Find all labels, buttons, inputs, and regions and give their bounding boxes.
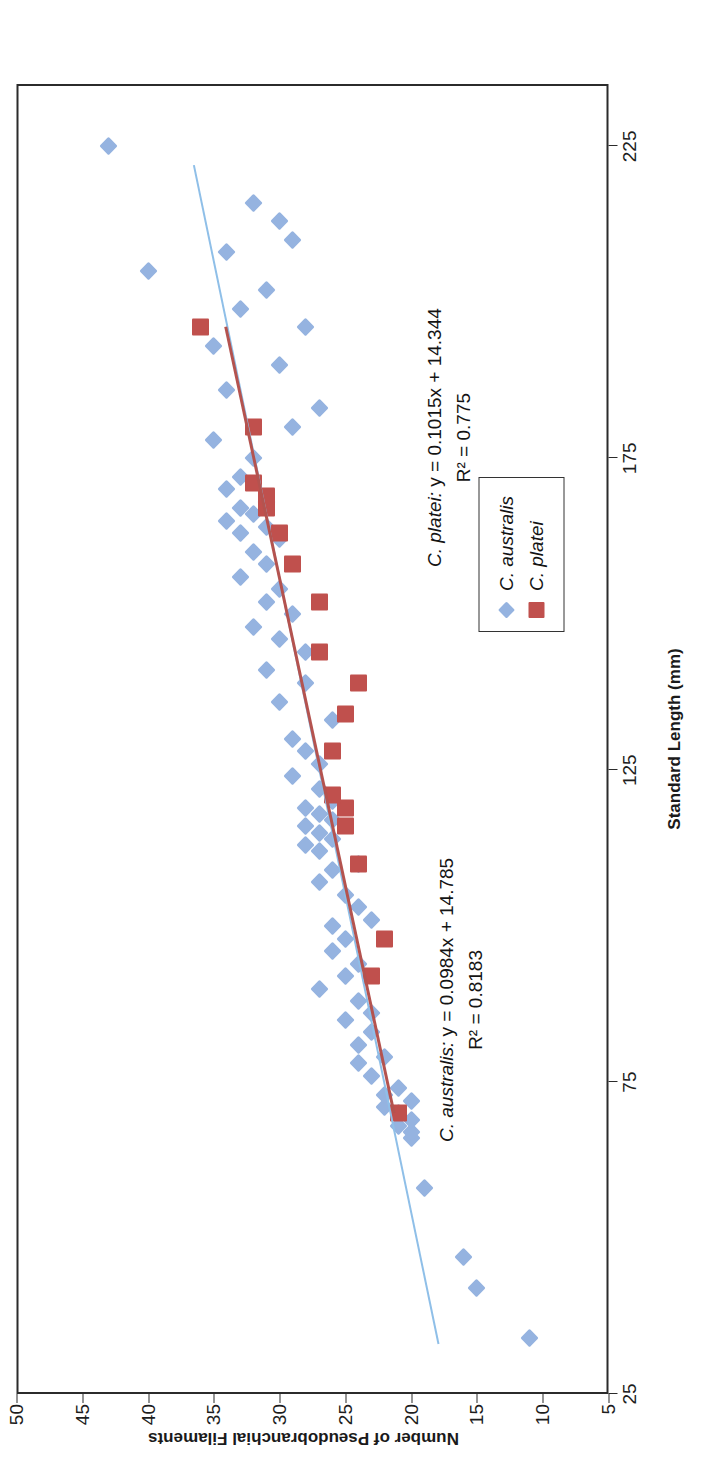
annotation-australis-fit: C. australis: y = 0.0984x + 14.785R² = 0… [432,858,489,1142]
annotation-equation-line: C. australis: y = 0.0984x + 14.785 [432,858,461,1142]
chart-figure: Callanthias 2575125175225510152025303540… [0,0,713,1472]
x-tick-mark [608,1081,617,1082]
legend-item-label: C. platei [525,521,547,591]
chart-legend: C. australisC. platei [478,477,564,632]
data-point [350,674,367,691]
data-point [323,743,340,760]
data-point [310,593,327,610]
annotation-equation-line: C. platei: y = 0.1015x + 14.344 [420,308,449,567]
x-tick-mark [608,769,617,770]
x-tick-label: 25 [618,1383,640,1404]
annotation-r2-line: R² = 0.8183 [461,858,490,1142]
y-tick-mark [608,1394,609,1403]
annotation-platei-fit: C. platei: y = 0.1015x + 14.344R² = 0.77… [420,308,477,567]
y-tick-mark [345,1394,346,1403]
y-tick-mark [411,1394,412,1403]
diamond-marker-icon [498,602,515,619]
data-point [271,525,288,542]
x-tick-label: 175 [618,442,640,474]
data-point [350,855,367,872]
x-tick-mark [608,145,617,146]
legend-item-label: C. australis [495,496,517,591]
y-tick-mark [279,1394,280,1403]
annotation-r2-line: R² = 0.775 [449,308,478,567]
data-point [336,818,353,835]
legend-item-australis[interactable]: C. australis [491,496,521,619]
y-tick-mark [82,1394,83,1403]
y-axis-title: Number of Pseudobranchial Filaments [7,1428,599,1448]
x-tick-mark [608,457,617,458]
data-point [192,319,209,336]
annotation-species-name: C. australis: [435,1042,456,1142]
data-point [336,706,353,723]
data-point [284,556,301,573]
legend-item-platei[interactable]: C. platei [521,496,551,619]
y-tick-mark [148,1394,149,1403]
x-tick-label: 125 [618,754,640,786]
y-tick-mark [542,1394,543,1403]
y-tick-mark [213,1394,214,1403]
x-axis-title: Standard Length (mm) [664,84,684,1394]
annotation-species-name: C. platei: [423,492,444,567]
chart-figure-rotator: Callanthias 2575125175225510152025303540… [0,0,713,1472]
data-point [376,930,393,947]
y-tick-mark [16,1394,17,1403]
y-tick-mark [476,1394,477,1403]
y-tick-label: 5 [597,1404,619,1450]
square-marker-icon [528,602,544,618]
x-tick-label: 75 [618,1072,640,1093]
data-point [310,643,327,660]
x-tick-label: 225 [618,131,640,163]
